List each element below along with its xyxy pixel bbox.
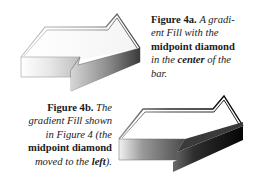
caption-text: bar. bbox=[151, 68, 167, 79]
caption-text: gradient Fill shown bbox=[28, 115, 112, 126]
caption-text: ). bbox=[106, 156, 112, 167]
caption-emphasis: midpoint diamond bbox=[28, 142, 112, 153]
arrow-figure-4a bbox=[21, 14, 140, 91]
caption-emphasis: center bbox=[177, 54, 204, 65]
caption-figure-4a: Figure 4a. A gradi- ent Fill with the mi… bbox=[151, 13, 264, 80]
caption-text: The bbox=[96, 102, 112, 113]
caption-text: in Figure 4 (the bbox=[46, 129, 112, 140]
caption-text: of the bbox=[205, 54, 231, 65]
figure-label: Figure 4a. bbox=[151, 14, 197, 25]
caption-text: in the bbox=[151, 54, 177, 65]
caption-text: moved to the bbox=[35, 156, 92, 167]
caption-emphasis: midpoint diamond bbox=[151, 41, 235, 52]
figure-label: Figure 4b. bbox=[47, 102, 93, 113]
caption-figure-4b: Figure 4b. The gradient Fill shown in Fi… bbox=[2, 101, 112, 168]
arrow-figure-4b bbox=[119, 96, 243, 172]
caption-text: A gradi- bbox=[199, 14, 234, 25]
caption-text: ent Fill with the bbox=[151, 27, 218, 38]
caption-emphasis: left bbox=[92, 156, 106, 167]
arrow-front-face bbox=[119, 139, 185, 160]
